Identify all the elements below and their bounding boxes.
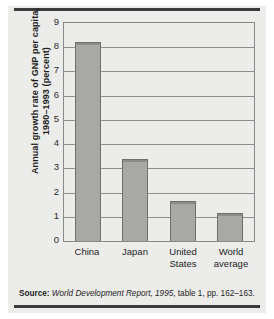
- source-note: Source: World Development Report, 1995, …: [19, 288, 259, 299]
- x-axis-label-china: China: [64, 246, 110, 280]
- bar-united-states: [170, 201, 196, 241]
- y-axis-tick-label: 5: [54, 114, 59, 124]
- x-axis-label-line: China: [64, 246, 110, 258]
- x-axis-label-line: United: [160, 246, 206, 258]
- y-axis-tick-label: 4: [54, 138, 59, 148]
- x-axis-label-line: World: [208, 246, 254, 258]
- bottom-rule: [14, 305, 260, 308]
- x-axis-label-world-average: Worldaverage: [208, 246, 254, 280]
- source-title: World Development Report, 1995: [52, 289, 174, 298]
- x-axis-label-united-states: UnitedStates: [160, 246, 206, 280]
- bar-china: [75, 42, 101, 241]
- x-axis-category-labels: ChinaJapanUnitedStatesWorldaverage: [63, 246, 255, 280]
- source-label: Source:: [19, 289, 49, 298]
- x-axis-label-line: Japan: [112, 246, 158, 258]
- x-axis-label-line: States: [160, 258, 206, 270]
- y-axis-title-line-1: Annual growth rate of GNP per capita,: [30, 0, 41, 191]
- figure-panel: Annual growth rate of GNP per capita, 19…: [8, 6, 266, 313]
- y-axis-tick-label: 6: [54, 90, 59, 100]
- x-axis-label-line: average: [208, 258, 254, 270]
- y-axis-tick-label: 9: [54, 17, 59, 27]
- source-detail: , table 1, pp. 162–163.: [173, 289, 255, 298]
- bar-japan: [122, 159, 148, 241]
- y-axis-tick-label: 1: [54, 211, 59, 221]
- plot-area: [63, 22, 255, 242]
- x-axis-label-japan: Japan: [112, 246, 158, 280]
- bar-series: [64, 23, 254, 241]
- bar-world-average: [217, 213, 243, 241]
- y-axis-tick-label: 8: [54, 41, 59, 51]
- y-axis-tick-label: 2: [54, 187, 59, 197]
- y-axis-tick-label: 0: [54, 235, 59, 245]
- y-axis-tick-labels: 9876543210: [41, 22, 59, 240]
- y-axis-tick-label: 3: [54, 163, 59, 173]
- y-axis-tick-label: 7: [54, 66, 59, 76]
